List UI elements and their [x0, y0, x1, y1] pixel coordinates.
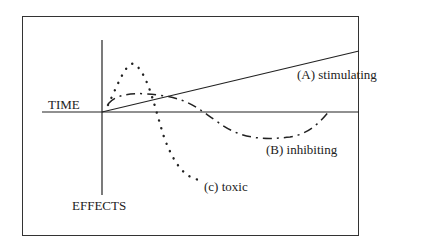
curve-b-label: (B) inhibiting [266, 142, 337, 158]
time-axis-label: TIME [48, 97, 80, 113]
curve-b-inhibiting [108, 94, 330, 139]
curve-c-label: (c) toxic [204, 179, 248, 195]
effects-axis-label: EFFECTS [72, 198, 126, 214]
curve-c-toxic [108, 64, 200, 180]
effects-diagram [0, 0, 425, 249]
curve-a-label: (A) stimulating [297, 67, 377, 83]
